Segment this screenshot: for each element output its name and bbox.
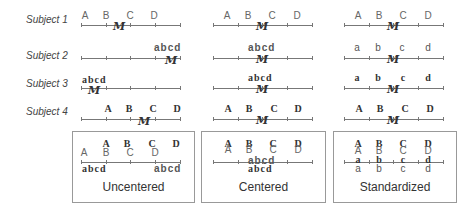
mean-symbol: M: [383, 22, 403, 32]
label-C: C: [267, 104, 281, 114]
label-A: A: [221, 145, 235, 155]
tick: [238, 160, 239, 164]
label-a: a: [350, 73, 364, 83]
label-a: a: [350, 43, 364, 53]
tick: [418, 160, 419, 164]
tick: [418, 56, 419, 60]
mean-symbol: M: [134, 117, 154, 127]
mean-symbol: M: [252, 22, 272, 32]
label-D: D: [291, 145, 305, 155]
tick: [155, 56, 156, 60]
tick: [213, 117, 214, 121]
label-D: D: [169, 139, 183, 149]
lowercase-group: abcd: [154, 43, 181, 53]
tick: [418, 86, 419, 90]
tick: [443, 160, 444, 164]
lowercase-group: abcd: [248, 43, 275, 53]
label-A: A: [101, 104, 115, 114]
tick: [312, 160, 313, 164]
tick: [344, 23, 345, 27]
tick: [369, 117, 370, 121]
tick: [81, 86, 82, 90]
label-C: C: [123, 148, 137, 158]
tick: [81, 23, 82, 27]
mean-symbol: M: [252, 85, 272, 95]
tick: [213, 160, 214, 164]
tick: [130, 23, 131, 27]
tick: [287, 117, 288, 121]
subject-4-label: Subject 4: [26, 106, 68, 117]
label-B: B: [241, 11, 255, 21]
label-D: D: [170, 104, 184, 114]
label-B: B: [122, 104, 136, 114]
tick: [287, 56, 288, 60]
tick: [312, 117, 313, 121]
tick: [130, 160, 131, 164]
tick: [344, 117, 345, 121]
subject-3-label: Subject 3: [26, 78, 68, 89]
tick: [106, 117, 107, 121]
tick: [155, 23, 156, 27]
label-A: A: [220, 11, 234, 21]
tick: [369, 86, 370, 90]
label-D: D: [423, 104, 437, 114]
mean-symbol: M: [109, 22, 129, 32]
label-D: D: [290, 11, 304, 21]
label-C: C: [146, 104, 160, 114]
panel-title: Centered: [202, 180, 325, 194]
tick: [287, 160, 288, 164]
label-D: D: [421, 11, 435, 21]
tick: [287, 86, 288, 90]
label-b: b: [372, 164, 386, 174]
tick: [180, 86, 181, 90]
tick: [155, 86, 156, 90]
tick: [443, 117, 444, 121]
mean-symbol: M: [383, 116, 403, 126]
tick: [344, 56, 345, 60]
label-d: d: [421, 164, 435, 174]
tick: [443, 56, 444, 60]
label-D: D: [291, 104, 305, 114]
label-D: D: [147, 11, 161, 21]
label-c: c: [395, 43, 409, 53]
tick: [130, 86, 131, 90]
tick: [238, 117, 239, 121]
tick: [213, 56, 214, 60]
tick: [418, 23, 419, 27]
mean-symbol: M: [383, 85, 403, 95]
tick: [81, 56, 82, 60]
label-A: A: [221, 104, 235, 114]
tick: [312, 86, 313, 90]
mean-symbol: M: [84, 86, 104, 96]
axis-line: [81, 119, 181, 120]
tick: [213, 86, 214, 90]
tick: [369, 160, 370, 164]
tick: [344, 160, 345, 164]
tick: [81, 117, 82, 121]
lowercase-group: abcd: [248, 164, 273, 174]
tick: [238, 86, 239, 90]
label-d: d: [421, 43, 435, 53]
tick: [106, 56, 107, 60]
panel-title: Standardized: [334, 180, 456, 194]
label-b: b: [371, 73, 385, 83]
tick: [213, 23, 214, 27]
tick: [287, 23, 288, 27]
tick: [106, 23, 107, 27]
label-A: A: [78, 11, 92, 21]
label-c: c: [396, 73, 410, 83]
tick: [155, 117, 156, 121]
label-B: B: [99, 148, 113, 158]
tick: [238, 23, 239, 27]
tick: [443, 23, 444, 27]
subject-1-label: Subject 1: [26, 14, 68, 25]
mean-symbol: M: [252, 116, 272, 126]
tick: [106, 86, 107, 90]
label-C: C: [398, 104, 412, 114]
tick: [130, 117, 131, 121]
lowercase-group: abcd: [154, 164, 181, 174]
label-B: B: [242, 145, 256, 155]
tick: [312, 56, 313, 60]
tick: [418, 117, 419, 121]
label-a: a: [351, 164, 365, 174]
